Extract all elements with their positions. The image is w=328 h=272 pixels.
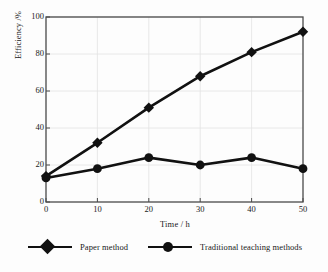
- plot-area: [0, 0, 328, 272]
- x-tick-label: 20: [134, 205, 164, 214]
- plot-frame: [46, 17, 303, 202]
- series-line-0: [46, 32, 303, 176]
- circle-marker-icon: [93, 164, 102, 173]
- x-tick-label: 30: [185, 205, 215, 214]
- legend-label: Traditional teaching methods: [200, 242, 302, 252]
- legend-label: Paper method: [80, 242, 128, 252]
- circle-marker-icon: [144, 153, 153, 162]
- circle-marker-icon: [163, 242, 173, 252]
- x-axis-label: Time / h: [46, 219, 304, 229]
- legend-item-traditional-teaching-methods: Traditional teaching methods: [148, 238, 302, 256]
- circle-marker-icon: [299, 164, 308, 173]
- chart-legend: Paper method Traditional teaching method…: [0, 238, 328, 260]
- circle-marker-icon: [196, 161, 205, 170]
- x-tick-label: 0: [31, 205, 61, 214]
- circle-marker-icon: [247, 153, 256, 162]
- legend-swatch-circle: [148, 239, 192, 255]
- diamond-marker-icon: [246, 47, 256, 57]
- legend-swatch-diamond: [28, 239, 72, 255]
- series-line-1: [46, 158, 303, 178]
- diamond-marker-icon: [40, 239, 56, 255]
- x-tick-label: 40: [237, 205, 267, 214]
- x-tick-label: 50: [288, 205, 318, 214]
- efficiency-vs-time-chart: Efficiency /% 020406080100 01020304050 T…: [0, 0, 328, 272]
- legend-item-paper-method: Paper method: [28, 238, 128, 256]
- x-tick-label: 10: [82, 205, 112, 214]
- circle-marker-icon: [42, 174, 51, 183]
- x-axis-tick-labels: 01020304050: [0, 205, 328, 217]
- diamond-marker-icon: [298, 27, 308, 37]
